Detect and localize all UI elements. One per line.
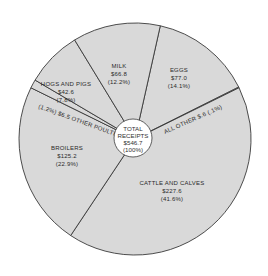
label-milk-value: $66.8: [111, 71, 127, 77]
label-eggs-value: $77.0: [171, 75, 187, 81]
label-eggs: EGGS $77.0 (14.1%): [168, 67, 190, 89]
center-total: TOTAL RECEIPTS $546.7 (100%): [114, 119, 152, 157]
label-cattle-name: CATTLE AND CALVES: [140, 180, 205, 186]
center-total-value: $546.7: [124, 139, 143, 146]
label-cattle-value: $227.6: [162, 188, 182, 194]
label-hogs-value: $42.6: [58, 89, 74, 95]
label-hogs-percent: (7.8%): [57, 97, 76, 103]
center-line-2: RECEIPTS: [118, 132, 149, 139]
center-total-percent: (100%): [123, 146, 143, 153]
pie-chart: MILK $66.8 (12.2%) EGGS $77.0 (14.1%) HO…: [0, 0, 268, 276]
label-broilers-value: $125.2: [57, 153, 77, 159]
label-eggs-percent: (14.1%): [168, 83, 190, 89]
label-hogs-name: HOGS AND PIGS: [41, 81, 91, 87]
center-line-1: TOTAL: [123, 125, 143, 132]
label-broilers-name: BROILERS: [51, 145, 83, 151]
label-broilers-percent: (22.9%): [56, 161, 78, 167]
label-milk-name: MILK: [112, 63, 127, 69]
label-milk-percent: (12.2%): [108, 79, 130, 85]
label-cattle-percent: (41.6%): [161, 196, 183, 202]
label-eggs-name: EGGS: [170, 67, 188, 73]
